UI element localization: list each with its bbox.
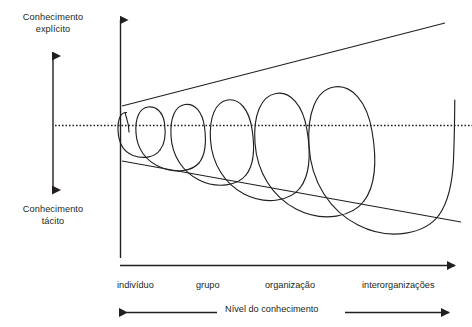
axis-label-explicit-knowledge: Conhecimento explícito [4, 11, 102, 35]
horizontal-axis-title: Nível do conhecimento [225, 304, 318, 314]
category-label-organizacao: organização [265, 280, 315, 290]
axis-label-tacit-knowledge: Conhecimento tácito [4, 203, 102, 227]
category-label-interorganizacoes: interorganizações [362, 280, 435, 290]
axis-label-explicit-line2: explícito [4, 23, 102, 35]
diagram-canvas [0, 0, 472, 327]
category-label-individuo: indivíduo [117, 280, 154, 290]
knowledge-spiral-figure: Conhecimento explícito Conhecimento táci… [0, 0, 472, 327]
axis-label-tacit-line2: tácito [4, 215, 102, 227]
axis-label-tacit-line1: Conhecimento [4, 203, 102, 215]
axis-label-explicit-line1: Conhecimento [4, 11, 102, 23]
category-label-grupo: grupo [196, 280, 220, 290]
